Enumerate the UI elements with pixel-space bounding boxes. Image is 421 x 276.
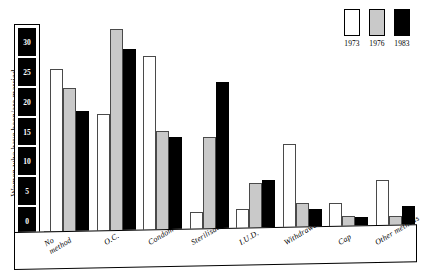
plot-area (44, 8, 417, 232)
y-axis-tick-5: 5 (18, 176, 36, 206)
y-axis-tick-30: 30 (18, 27, 36, 57)
y-axis-tick-15: 15 (18, 117, 36, 147)
x-label-line-1: I.U.D. (237, 228, 260, 247)
bar-withdrawal-1973 (283, 144, 296, 232)
bar-o-c-1983 (123, 49, 136, 232)
bar-i-u-d-1983 (262, 180, 275, 232)
bar-no-method-1983 (76, 111, 89, 232)
x-label-line-1: Cap (336, 232, 353, 247)
bar-condom-1976 (156, 131, 169, 232)
bar-i-u-d-1976 (249, 183, 262, 232)
bar-condom-1973 (143, 56, 156, 232)
y-axis-tick-25: 25 (18, 57, 36, 87)
bar-o-c-1976 (110, 29, 123, 232)
bar-sterilisation-1976 (203, 137, 216, 232)
x-axis-label-o-c: O.C. (102, 231, 120, 247)
bar-no-method-1973 (50, 69, 63, 232)
bar-condom-1983 (169, 137, 182, 232)
bar-sterilisation-1983 (216, 82, 229, 232)
bar-chart: 1973 1976 1983 Women who have been/are m… (0, 0, 421, 276)
x-axis-label-no-method: Nomethod (43, 228, 73, 256)
x-axis-label-cap: Cap (336, 232, 353, 247)
y-axis-tick-strip: 302520151050 (18, 27, 36, 236)
bar-no-method-1976 (63, 88, 76, 232)
y-axis-tick-20: 20 (18, 87, 36, 117)
x-axis-labels: NomethodO.C.CondomSterilisationI.U.D.Wit… (44, 232, 421, 276)
x-label-line-1: O.C. (102, 231, 120, 247)
y-axis-tick-10: 10 (18, 146, 36, 176)
x-axis-label-i-u-d: I.U.D. (237, 228, 260, 247)
bar-o-c-1973 (97, 114, 110, 232)
